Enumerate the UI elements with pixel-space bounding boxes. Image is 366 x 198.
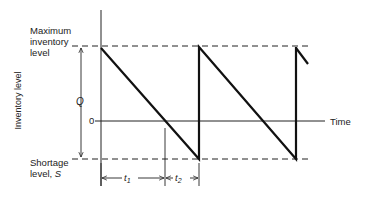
inventory-diagram: Maximum inventory level Shortage level, …: [0, 0, 366, 198]
max-label-line3: level: [30, 47, 71, 58]
shortage-symbol: S: [55, 168, 61, 179]
y-axis-label: Inventory level: [13, 69, 24, 133]
t1-label: t1: [124, 172, 131, 186]
shortage-label-line1: Shortage: [30, 157, 69, 168]
inventory-sawtooth-partial: [296, 48, 308, 64]
shortage-level-label: Shortage level, S: [30, 157, 69, 179]
t2-sub: 2: [178, 177, 182, 184]
max-label-line1: Maximum: [30, 25, 71, 36]
q-label: Q: [76, 96, 84, 107]
t1-sub: 1: [127, 177, 131, 184]
max-label-line2: inventory: [30, 36, 71, 47]
zero-label: 0: [89, 115, 94, 126]
shortage-label-line2: level, S: [30, 168, 69, 179]
inventory-sawtooth: [101, 47, 296, 159]
t2-label: t2: [175, 172, 182, 186]
shortage-label-text: level,: [30, 168, 55, 179]
time-axis-label: Time: [330, 116, 351, 127]
max-inventory-label: Maximum inventory level: [30, 25, 71, 58]
